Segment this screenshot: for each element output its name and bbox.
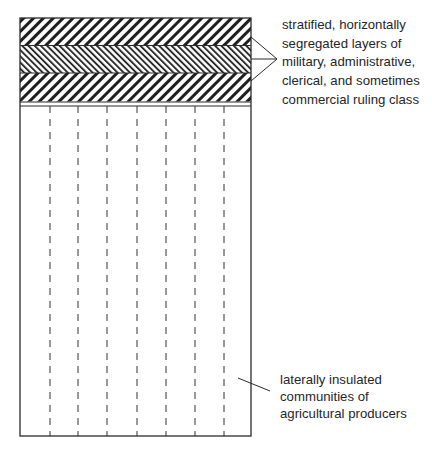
- label-line: agricultural producers: [280, 405, 407, 422]
- label-line: military, administrative,: [282, 53, 420, 72]
- middle-ruling-layer: [20, 46, 251, 74]
- label-line: segregated layers of: [282, 35, 420, 54]
- producer-communities-block: [50, 106, 224, 436]
- producers-label: laterally insulated communities of agric…: [280, 371, 407, 422]
- ruling-class-pointer: [251, 37, 277, 81]
- lower-ruling-layer: [20, 73, 251, 102]
- label-line: laterally insulated: [280, 371, 407, 388]
- upper-ruling-layer: [20, 18, 251, 46]
- label-line: commercial ruling class: [282, 91, 420, 110]
- ruling-class-label: stratified, horizontally segregated laye…: [282, 16, 420, 109]
- producers-leader-line: [238, 378, 270, 391]
- label-line: stratified, horizontally: [282, 16, 420, 35]
- label-line: clerical, and sometimes: [282, 72, 420, 91]
- ruling-class-block: [20, 18, 251, 106]
- label-line: communities of: [280, 388, 407, 405]
